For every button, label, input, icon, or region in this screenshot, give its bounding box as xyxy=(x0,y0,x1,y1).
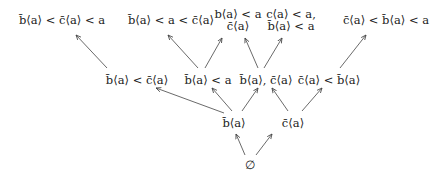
node-top-3: b⟨a⟩ < a c̄⟨a⟩ xyxy=(215,8,262,32)
edge-mid-3-to-top-4 xyxy=(264,38,282,68)
edge-empty-to-c-bar xyxy=(256,134,272,155)
edge-b-bar-to-mid-1 xyxy=(156,88,224,113)
edge-mid-4-to-top-5 xyxy=(340,35,366,68)
node-label-line-2: c̄⟨a⟩ xyxy=(215,20,262,32)
node-label: c̄⟨a⟩ < b̄⟨a⟩ < a xyxy=(343,14,429,26)
node-label-line-2: b̄⟨a⟩ < a xyxy=(266,20,316,32)
node-top-5: c̄⟨a⟩ < b̄⟨a⟩ < a xyxy=(343,14,429,26)
edge-c-bar-to-mid-3 xyxy=(272,88,288,111)
node-b-bar: b̄⟨a⟩ xyxy=(222,117,245,129)
node-mid-1: b̄⟨a⟩ < c̄⟨a⟩ xyxy=(106,74,168,86)
node-label: c̄⟨a⟩ xyxy=(282,117,304,129)
node-c-bar: c̄⟨a⟩ xyxy=(282,117,304,129)
node-mid-2: b̄⟨a⟩ < a xyxy=(185,74,232,86)
node-label: ∅ xyxy=(245,159,255,171)
node-mid-4: c̄⟨a⟩ < b̄⟨a⟩ xyxy=(298,74,360,86)
node-label: b̄⟨a⟩ < a xyxy=(185,74,232,86)
node-label: b̄⟨a⟩ xyxy=(222,117,245,129)
node-label: b̄⟨a⟩, c̄⟨a⟩ xyxy=(240,74,293,86)
edge-b-bar-to-mid-2 xyxy=(212,88,232,111)
node-mid-3: b̄⟨a⟩, c̄⟨a⟩ xyxy=(240,74,293,86)
node-top-2: b̄⟨a⟩ < a < c̄⟨a⟩ xyxy=(128,14,214,26)
node-top-4: c⟨a⟩ < a, b̄⟨a⟩ < a xyxy=(266,8,316,32)
edge-mid-1-to-top-1 xyxy=(76,35,107,68)
node-label: b̄⟨a⟩ < a < c̄⟨a⟩ xyxy=(128,14,214,26)
edge-mid-2-to-top-3 xyxy=(205,38,222,68)
node-label: c̄⟨a⟩ < b̄⟨a⟩ xyxy=(298,74,360,86)
node-label: b̄⟨a⟩ < c̄⟨a⟩ < a xyxy=(19,14,105,26)
node-label: b̄⟨a⟩ < c̄⟨a⟩ xyxy=(106,74,168,86)
edge-mid-3-to-top-3 xyxy=(245,38,258,68)
edge-b-bar-to-mid-3 xyxy=(242,88,258,111)
edge-c-bar-to-mid-4 xyxy=(302,88,322,111)
node-empty-set: ∅ xyxy=(245,159,255,171)
edge-mid-2-to-top-2 xyxy=(168,35,198,68)
hasse-diagram: b̄⟨a⟩ < c̄⟨a⟩ < a b̄⟨a⟩ < a < c̄⟨a⟩ b⟨a⟩… xyxy=(0,0,437,182)
edge-empty-to-b-bar xyxy=(236,134,245,155)
node-top-1: b̄⟨a⟩ < c̄⟨a⟩ < a xyxy=(19,14,105,26)
